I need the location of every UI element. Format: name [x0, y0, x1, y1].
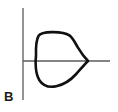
closed-curve	[36, 32, 88, 87]
figure-canvas	[0, 0, 118, 112]
figure-panel: B	[0, 0, 118, 112]
panel-label-b: B	[4, 90, 13, 104]
curve-group	[36, 32, 88, 87]
